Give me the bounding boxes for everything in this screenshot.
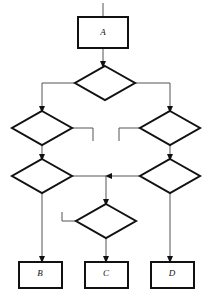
connector-decision1-to-decision3 <box>135 83 170 108</box>
node-decision-4[interactable] <box>12 159 72 193</box>
connector-decision1-to-decision2 <box>42 83 75 108</box>
node-decision-3-shape <box>140 111 200 145</box>
node-decision-2-shape <box>12 111 72 145</box>
node-b-label: B <box>37 268 43 278</box>
node-decision-1-shape <box>75 66 135 100</box>
node-c[interactable]: C <box>85 262 128 288</box>
node-b[interactable]: B <box>19 262 62 288</box>
connector-decision3-stub <box>119 128 140 141</box>
connector-decision2-stub <box>72 128 93 141</box>
node-a[interactable]: A <box>78 17 128 48</box>
node-c-label: C <box>103 268 110 278</box>
node-decision-6-shape <box>76 204 136 238</box>
connector-decision6-stub <box>62 212 76 221</box>
node-decision-5[interactable] <box>140 159 200 193</box>
node-decision-4-shape <box>12 159 72 193</box>
node-a-label: A <box>99 27 106 37</box>
node-decision-2[interactable] <box>12 111 72 145</box>
flowchart-canvas: A <box>0 0 213 297</box>
node-decision-3[interactable] <box>140 111 200 145</box>
node-decision-6[interactable] <box>76 204 136 238</box>
node-d-label: D <box>168 268 176 278</box>
node-decision-5-shape <box>140 159 200 193</box>
node-decision-1[interactable] <box>75 66 135 100</box>
flowchart-diagram: A <box>0 0 213 297</box>
node-d[interactable]: D <box>151 262 194 288</box>
